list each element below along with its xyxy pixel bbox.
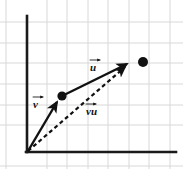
vector-diagram-canvas xyxy=(0,0,183,169)
vector-label-v: v xyxy=(33,99,38,110)
endpoint-point xyxy=(138,57,148,67)
vector-label-u: u xyxy=(90,62,96,73)
intermediate-point xyxy=(57,91,66,100)
points xyxy=(57,57,148,101)
vector-label-u-text: u xyxy=(90,61,96,73)
vector-label-vu-text: vu xyxy=(86,105,97,117)
vector-addition-figure: v u vu xyxy=(0,0,183,169)
vector-label-v-text: v xyxy=(33,98,38,110)
vector-label-vu: vu xyxy=(86,106,97,117)
vector-vu-line xyxy=(28,67,125,151)
vector-vu xyxy=(28,67,125,151)
